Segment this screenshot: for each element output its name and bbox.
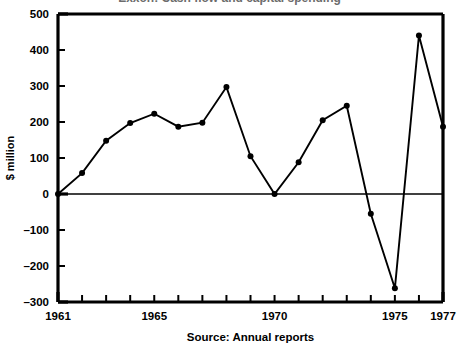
data-point-1968[interactable] (223, 84, 229, 90)
x-tick-label-1975: 1975 (382, 310, 408, 322)
y-tick-label-500: 500 (30, 8, 49, 20)
line-chart: 5004003002001000–100–200–300196119651970… (0, 0, 459, 349)
data-point-1975[interactable] (392, 285, 398, 291)
data-series-line (58, 36, 443, 289)
source-caption: Source: Annual reports (187, 331, 314, 343)
x-tick-label-1970: 1970 (262, 310, 288, 322)
chart-figure: Exxon: Cash flow and capital spending 50… (0, 0, 459, 349)
x-tick-label-1965: 1965 (141, 310, 167, 322)
y-tick-label-0: 0 (43, 188, 49, 200)
y-tick-label-400: 400 (30, 44, 49, 56)
y-tick-label--100: –100 (23, 224, 49, 236)
data-point-1965[interactable] (151, 111, 157, 117)
data-point-1974[interactable] (368, 211, 374, 217)
y-axis-title: $ million (4, 135, 16, 180)
x-tick-label-1977: 1977 (430, 310, 456, 322)
y-tick-label-300: 300 (30, 80, 49, 92)
y-tick-label--200: –200 (23, 260, 49, 272)
data-point-1963[interactable] (103, 138, 109, 144)
data-point-1976[interactable] (416, 33, 422, 39)
y-tick-label--300: –300 (23, 296, 49, 308)
data-point-1969[interactable] (248, 153, 254, 159)
data-point-1961[interactable] (55, 191, 61, 197)
data-point-1971[interactable] (296, 159, 302, 165)
data-point-1967[interactable] (199, 120, 205, 126)
data-point-1973[interactable] (344, 103, 350, 109)
y-tick-label-200: 200 (30, 116, 49, 128)
y-tick-label-100: 100 (30, 152, 49, 164)
data-point-1964[interactable] (127, 120, 133, 126)
data-point-1962[interactable] (79, 170, 85, 176)
data-point-1970[interactable] (272, 191, 278, 197)
data-point-1977[interactable] (440, 124, 446, 130)
data-point-1966[interactable] (175, 124, 181, 130)
data-point-1972[interactable] (320, 117, 326, 123)
x-tick-label-1961: 1961 (45, 310, 71, 322)
